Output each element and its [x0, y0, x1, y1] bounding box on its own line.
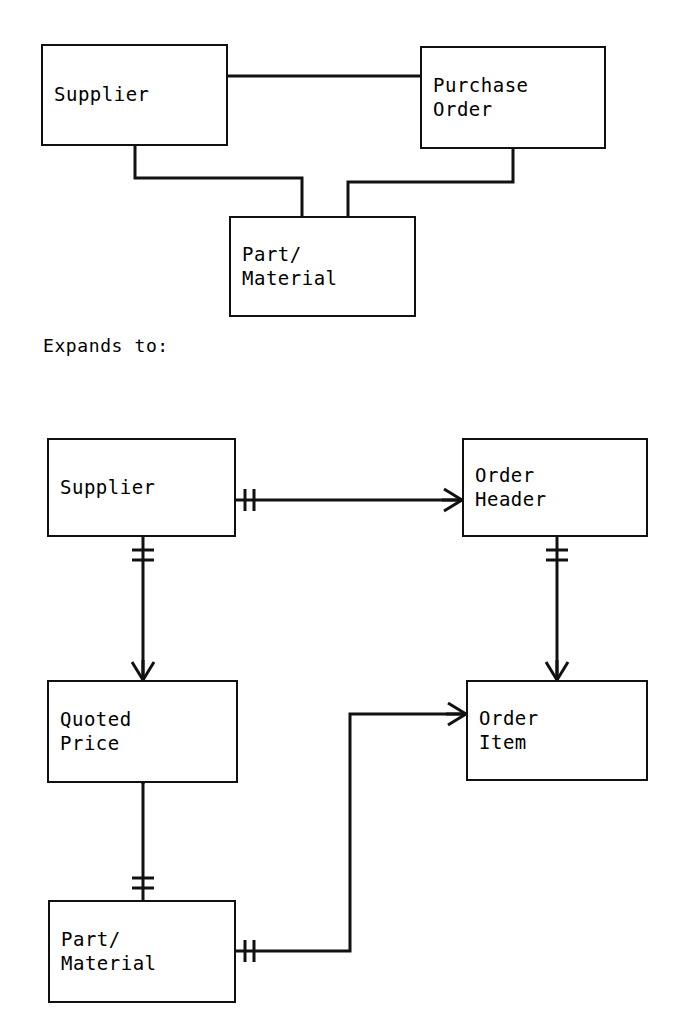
diagram-canvas: Supplier Purchase Order Part/ Material E…	[0, 0, 675, 1014]
entity-purchase-order[interactable]: Purchase Order	[420, 46, 606, 149]
entity-label: Supplier	[43, 83, 150, 106]
entity-order-header[interactable]: Order Header	[462, 438, 648, 537]
entity-label: Order Header	[464, 464, 547, 510]
entity-label: Quoted Price	[49, 708, 132, 754]
marker-many-order-item-top	[546, 660, 568, 680]
entity-supplier-top[interactable]: Supplier	[41, 44, 228, 146]
expands-to-caption: Expands to:	[43, 335, 169, 356]
marker-many-order-item-left	[446, 703, 466, 725]
entity-label: Purchase Order	[422, 74, 529, 120]
marker-many-order-header	[442, 489, 462, 511]
connector-purchase-order-part-material	[348, 149, 513, 216]
entity-quoted-price[interactable]: Quoted Price	[47, 680, 238, 783]
marker-many-quoted-price-top	[132, 660, 154, 680]
connector-supplier-part-material	[135, 146, 302, 216]
connector-part-material-order-item	[236, 714, 466, 951]
entity-label: Part/ Material	[231, 243, 338, 289]
entity-supplier-expanded[interactable]: Supplier	[47, 438, 236, 537]
entity-order-item[interactable]: Order Item	[466, 680, 648, 781]
entity-part-material-top[interactable]: Part/ Material	[229, 216, 416, 317]
entity-label: Supplier	[49, 476, 156, 499]
entity-label: Part/ Material	[50, 928, 157, 974]
entity-label: Order Item	[468, 707, 539, 753]
entity-part-material-expanded[interactable]: Part/ Material	[48, 900, 236, 1003]
